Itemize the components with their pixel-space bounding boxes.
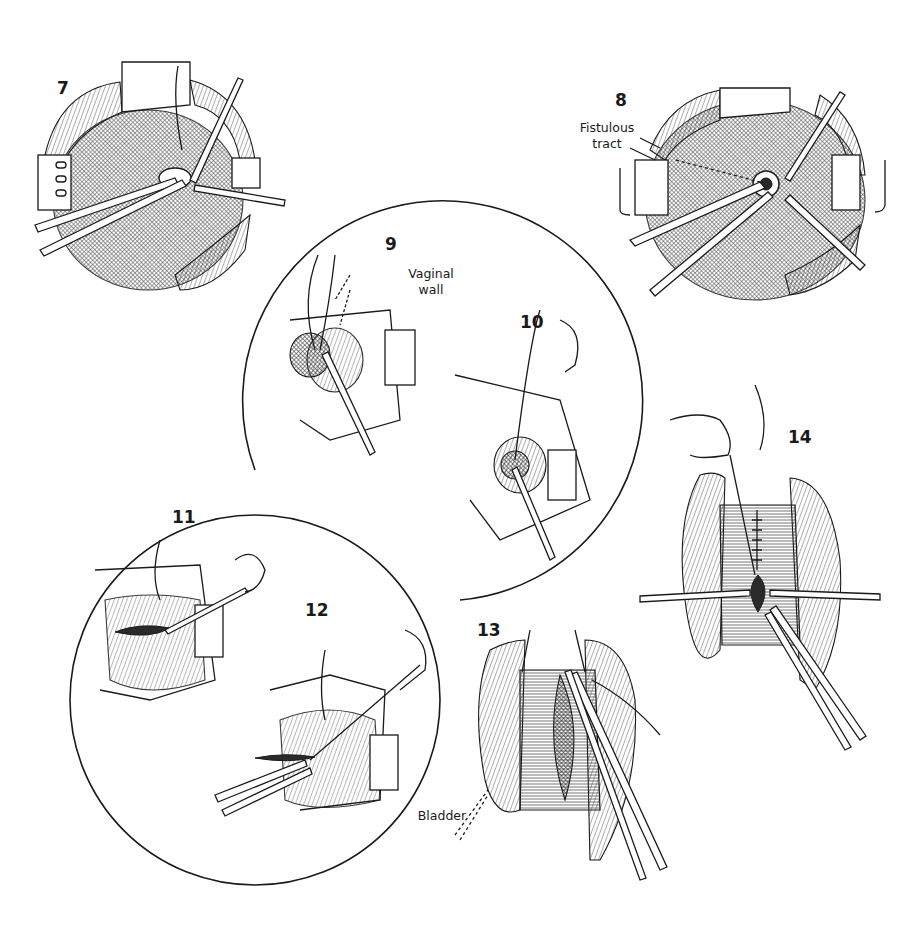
illustration-artwork: [0, 0, 917, 940]
panel-14-drawing: [640, 385, 880, 750]
annotation-fistulous-line1: Fistulous: [572, 120, 642, 136]
surgical-illustration-figure: 7 8 9 10 11 12 13 14 Fistulous tract Vag…: [0, 0, 917, 940]
panel-label-9: 9: [385, 234, 397, 254]
panel-label-11: 11: [172, 507, 196, 527]
panel-label-8: 8: [615, 90, 627, 110]
annotation-vaginal-line2: wall: [396, 282, 466, 298]
panel-label-10: 10: [520, 312, 544, 332]
panel-7-drawing: [35, 62, 285, 290]
panel-label-12: 12: [305, 600, 329, 620]
annotation-vaginal-line1: Vaginal: [396, 266, 466, 282]
annotation-fistulous-tract: Fistulous tract: [572, 120, 642, 152]
panel-13-drawing: [460, 630, 667, 880]
panel-label-13: 13: [477, 620, 501, 640]
panel-9-10-drawing: [243, 201, 643, 600]
panel-label-14: 14: [788, 427, 812, 447]
panel-8-drawing: [620, 88, 885, 300]
annotation-bladder-line1: Bladder: [412, 808, 472, 824]
annotation-bladder: Bladder: [412, 808, 472, 824]
annotation-fistulous-line2: tract: [572, 136, 642, 152]
annotation-vaginal-wall: Vaginal wall: [396, 266, 466, 298]
panel-11-12-drawing: [70, 515, 440, 885]
panel-label-7: 7: [57, 78, 69, 98]
